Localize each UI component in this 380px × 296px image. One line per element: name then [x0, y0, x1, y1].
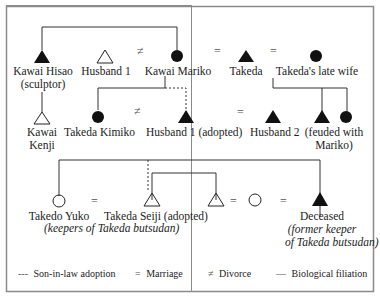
takeda-kimiko-label: Takeda Kimiko [64, 126, 134, 139]
sibling-spouse-symbol [249, 194, 261, 206]
legend-adoption-label: Son-in-law adoption [34, 268, 116, 279]
marriage-symbol-husbands: = [237, 105, 244, 120]
marriage-symbol-deceased: = [280, 194, 287, 209]
kawai-kenji-label: Kawai Kenji [22, 126, 62, 152]
husband1-adopted-label: Husband 1 (adopted) [146, 126, 228, 139]
kawai-hisao-name: Kawai Hisao [12, 65, 74, 78]
feuded-note-line1: (feuded with [302, 126, 366, 139]
takeda-kimiko-symbol [92, 111, 104, 123]
filiation-takeda-children-line [273, 78, 347, 112]
legend-divorce: ≠ Divorce [208, 268, 251, 279]
deceased-symbol [312, 192, 328, 206]
dashed-line-icon: --- [18, 268, 28, 279]
husband2-symbol [265, 110, 281, 123]
legend-filiation: — Biological filiation [276, 268, 367, 279]
kawai-mariko-label: Kawai Mariko [143, 65, 213, 78]
takedas-late-wife-label: Takeda's late wife [275, 65, 359, 78]
solid-line-icon: — [276, 268, 286, 279]
takedas-late-wife-symbol [310, 50, 322, 62]
feuded-sister-symbol [340, 111, 352, 123]
kawai-kenji-line2: Kenji [22, 139, 62, 152]
husband1-top-label: Husband 1 [80, 65, 132, 78]
husband1-adopted-symbol [178, 110, 194, 123]
marriage-icon: = [135, 268, 141, 279]
feuded-brother-symbol [314, 110, 330, 123]
legend-marriage-label: Marriage [146, 268, 183, 279]
deceased-note-line1: (former keeper [285, 223, 359, 236]
takeda-label: Takeda [224, 65, 268, 78]
kawai-kenji-symbol [34, 112, 50, 124]
feuded-note-line2: Mariko) [302, 139, 366, 152]
filiation-hisao-mariko [42, 27, 177, 50]
kawai-kenji-line1: Kawai [22, 126, 62, 139]
filiation-seiji-sibling [152, 173, 216, 200]
adoption-mariko-husband1 [165, 88, 186, 112]
kawai-hisao-label: Kawai Hisao (sculptor) [12, 65, 74, 91]
marriage-symbol-mariko-takeda: = [214, 44, 221, 59]
keepers-note: (keepers of Takeda butsudan) [44, 222, 166, 235]
filiation-mariko-kimiko [98, 76, 165, 110]
deceased-name: Deceased [285, 210, 359, 223]
deceased-note-line2: of Takeda butsudan) [285, 236, 359, 249]
legend-divorce-label: Divorce [219, 268, 251, 279]
husband1-top-symbol [97, 50, 113, 63]
marriage-symbol-takeda-wife: = [270, 44, 277, 59]
takeda-symbol [238, 50, 254, 62]
husband2-label: Husband 2 [250, 126, 298, 139]
deceased-label: Deceased (former keeper of Takeda butsud… [285, 210, 359, 249]
takedo-yuko-symbol [53, 195, 65, 207]
divorce-symbol-top: ≠ [137, 44, 144, 59]
marriage-symbol-sibling: = [230, 194, 237, 209]
legend-adoption: --- Son-in-law adoption [18, 268, 115, 279]
legend-filiation-label: Biological filiation [292, 268, 368, 279]
kawai-hisao-symbol [34, 50, 50, 63]
divorce-symbol-kimiko: ≠ [134, 104, 141, 119]
divorce-icon: ≠ [208, 268, 214, 279]
legend-marriage: = Marriage [135, 268, 183, 279]
kawai-mariko-symbol [171, 50, 183, 62]
kawai-hisao-note: (sculptor) [12, 78, 74, 91]
feuded-note-label: (feuded with Mariko) [302, 126, 366, 152]
marriage-symbol-yuko-seiji: = [91, 194, 98, 209]
